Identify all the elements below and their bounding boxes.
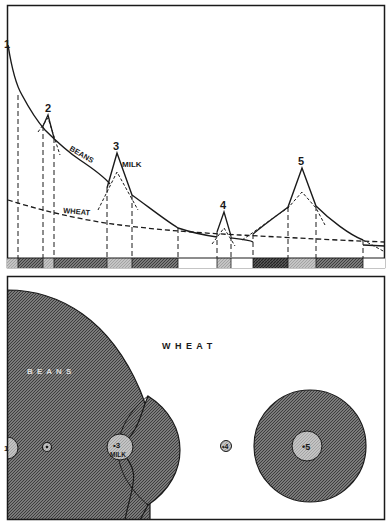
market-1-label: 1 — [4, 38, 10, 50]
market-area-diagram: 1 2 3 4 5 MILK BEANS WHEAT — [0, 0, 388, 523]
milk-disc-label: MILK — [110, 451, 126, 458]
beans-curve — [8, 45, 385, 246]
market-4-label: 4 — [220, 199, 227, 211]
beans-area — [7, 290, 150, 520]
wheat-region-label: W H E A T — [162, 341, 213, 351]
market-4-disc-label: •4 — [222, 443, 228, 450]
market-5-label: 5 — [298, 155, 304, 167]
market-4-peak — [217, 212, 231, 236]
market-2-dashed — [38, 118, 60, 155]
market-2-label: 2 — [45, 102, 51, 114]
top-panel-frame — [8, 6, 385, 268]
land-use-strip — [7, 258, 385, 268]
milk-curve-label: MILK — [122, 160, 142, 169]
market-1-disc — [0, 437, 18, 459]
market-3-disc-label: •3 — [113, 441, 121, 450]
market-1-disc-label: 1 — [4, 444, 9, 453]
projection-lines — [18, 95, 363, 258]
market-3-label: 3 — [113, 140, 119, 152]
market-5-disc-label: •5 — [302, 442, 310, 452]
wheat-curve-label: WHEAT — [63, 206, 91, 217]
bottom-panel-market-areas: W H E A T B E A N S 1 •3 MILK •4 •5 — [0, 277, 385, 521]
market-5-peak — [253, 168, 363, 240]
top-panel-rent-curves: 1 2 3 4 5 MILK BEANS WHEAT — [4, 6, 385, 269]
beans-region-label: B E A N S — [27, 367, 72, 376]
